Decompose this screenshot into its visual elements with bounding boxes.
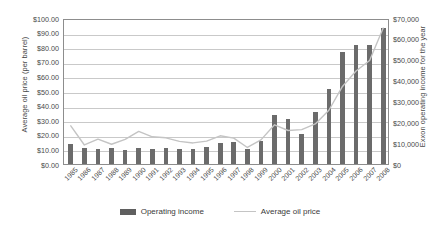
left-tick-000: $0.00 (0, 161, 59, 170)
right-tick-30000: $30,000 (393, 98, 440, 107)
left-tick-1000: $10.00 (0, 146, 59, 155)
left-tick-4000: $40.00 (0, 102, 59, 111)
left-tick-8000: $80.00 (0, 44, 59, 53)
left-tick-10000: $100.00 (0, 15, 59, 24)
legend-item-average-oil-price: Average oil price (234, 207, 320, 216)
bar-swatch-icon (120, 209, 136, 215)
right-tick-10000: $10,000 (393, 140, 440, 149)
right-tick-0: $0 (393, 161, 440, 170)
x-axis-tick-labels: 1985198619871988198919901991199219931994… (63, 166, 389, 200)
right-tick-70000: $70,000 (393, 15, 440, 24)
plot-area (63, 19, 389, 165)
line-series-average-oil-price (64, 20, 390, 166)
left-tick-9000: $90.00 (0, 29, 59, 38)
legend-item-operating-income: Operating income (120, 207, 204, 216)
right-tick-20000: $20,000 (393, 119, 440, 128)
oil-price-exxon-income-chart: Average oil price (per barrel) Exxon ope… (0, 0, 440, 232)
right-tick-60000: $60,000 (393, 35, 440, 44)
legend-label-operating-income: Operating income (141, 207, 204, 216)
left-tick-2000: $20.00 (0, 131, 59, 140)
line-swatch-icon (234, 211, 256, 212)
legend-label-average-oil-price: Average oil price (261, 207, 320, 216)
left-tick-6000: $60.00 (0, 73, 59, 82)
chart-legend: Operating income Average oil price (0, 207, 440, 216)
left-tick-5000: $50.00 (0, 88, 59, 97)
left-tick-3000: $30.00 (0, 117, 59, 126)
right-tick-40000: $40,000 (393, 77, 440, 86)
left-tick-7000: $70.00 (0, 58, 59, 67)
right-tick-50000: $50,000 (393, 56, 440, 65)
